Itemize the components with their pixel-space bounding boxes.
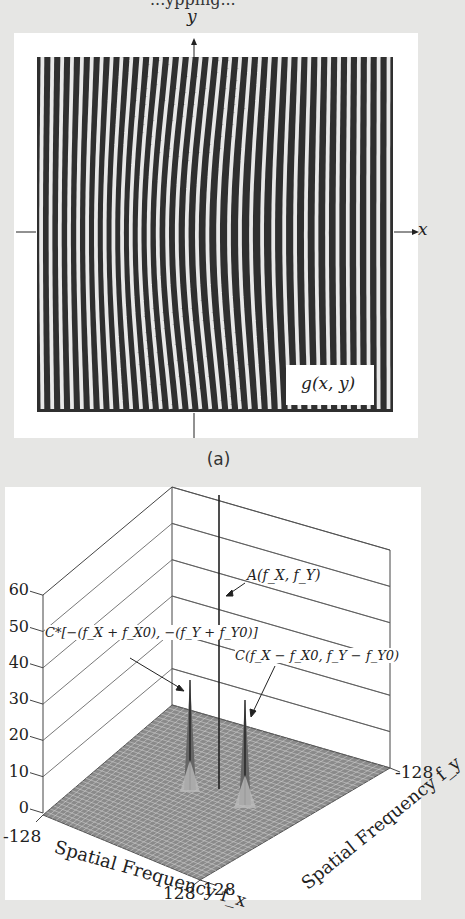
z-tick-label: 60: [9, 580, 29, 599]
z-tick-label: 50: [9, 617, 29, 636]
z-tick-label: 40: [9, 653, 29, 672]
left-wall-top-edge: [43, 487, 172, 595]
z-tick-label: 10: [9, 762, 29, 781]
z-axis-ticks: [30, 591, 43, 813]
x-axis-max-label: 128: [163, 883, 195, 903]
z-tick-label: 30: [9, 689, 29, 708]
annotation-left-peak: C*[−(f_X + f_X0), −(f_Y + f_Y0)]: [45, 625, 258, 640]
z-tick-label: 0: [19, 798, 29, 817]
z-tick-label: 20: [9, 725, 29, 744]
y-axis-max-label: 128: [203, 879, 235, 899]
annotation-center-peak: A(f_X, f_Y): [247, 567, 321, 583]
x-axis-min-label: -128: [3, 826, 41, 846]
annotation-right-peak: C(f_X − f_X0, f_Y − f_Y0): [235, 648, 399, 663]
